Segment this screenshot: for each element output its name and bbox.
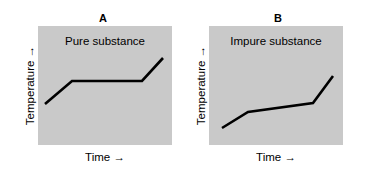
panel-a-x-axis-label: Time → — [38, 150, 172, 164]
panel-a-curve — [45, 58, 163, 104]
panel-a-curve-svg — [38, 26, 172, 145]
panel-a: A Temperature → Pure substance Time → — [0, 0, 182, 181]
panel-b-curve — [222, 76, 333, 128]
panel-b-plot-area: Impure substance — [209, 26, 343, 145]
panel-b-x-axis-label: Time → — [209, 150, 343, 164]
panel-a-y-axis-label: Temperature → — [22, 26, 38, 145]
panel-b-title: B — [183, 12, 365, 24]
panel-a-title: A — [0, 12, 182, 24]
panel-b: B Temperature → Impure substance Time → — [183, 0, 365, 181]
panel-a-plot-area: Pure substance — [38, 26, 172, 145]
figure-heating-curves: A Temperature → Pure substance Time → B … — [0, 0, 365, 181]
panel-b-curve-svg — [209, 26, 343, 145]
panel-b-y-axis-label: Temperature → — [193, 26, 209, 145]
